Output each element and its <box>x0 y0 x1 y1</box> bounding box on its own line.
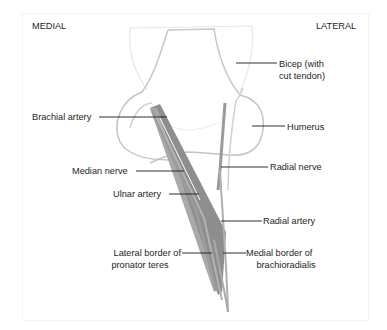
medial-border-label-line1: Medial border of <box>246 247 312 259</box>
medial-orientation-label: MEDIAL <box>32 20 66 32</box>
humerus-label: Humerus <box>287 121 324 133</box>
radial-nerve-label: Radial nerve <box>270 161 322 173</box>
antecubital-fossa-illustration <box>0 0 387 330</box>
radial-artery-label: Radial artery <box>263 215 315 227</box>
median-nerve-label: Median nerve <box>72 165 128 177</box>
bicep-label-line1: Bicep (with <box>279 58 324 70</box>
medial-border-label-line2: brachioradialis <box>246 259 326 271</box>
bicep-shape <box>142 29 240 95</box>
lateral-border-label-line1: Lateral border of <box>103 247 181 259</box>
lateral-orientation-label: LATERAL <box>316 20 356 32</box>
brachial-artery-label: Brachial artery <box>32 111 91 123</box>
ulnar-artery-label: Ulnar artery <box>113 188 161 200</box>
lateral-border-label-line2: pronator teres <box>103 259 177 271</box>
bicep-label-line2: cut tendon) <box>279 70 325 82</box>
